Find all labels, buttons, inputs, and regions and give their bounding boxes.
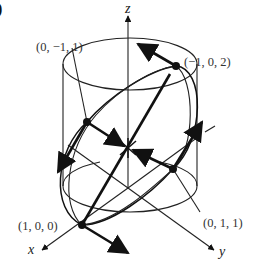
arrow-left-to-center [87,122,124,146]
axis-tick-right [205,126,215,132]
label-point-0-1-1: (0, 1, 1) [203,216,243,230]
tangent-arrow-right [173,122,202,169]
label-point-neg1-0-2: (−1, 0, 2) [184,55,231,69]
diagram-canvas: ) [0,0,262,266]
point-0-1-1 [169,165,177,173]
y-axis-label: y [217,244,226,259]
leader-0-neg1-1 [72,48,87,122]
label-point-0-neg1-1: (0, −1, 1) [36,40,83,54]
point-1-0-0 [78,221,86,229]
y-axis [128,188,214,250]
z-axis-label: z [124,1,131,16]
x-axis-label: x [27,242,35,257]
tangent-arrow-left [58,122,87,172]
vectors [58,44,202,253]
cylinder-diagram: ) [0,0,262,266]
point-neg1-0-2 [172,62,180,70]
diameter-vector [82,74,170,225]
point-0-neg1-1 [83,118,91,126]
neg-y-extension [68,145,128,188]
tangent-arrow-top [138,44,176,66]
panel-marker: ) [0,0,2,18]
label-point-1-0-0: (1, 0, 0) [18,219,58,233]
tangent-arrow-bottom [82,225,128,253]
